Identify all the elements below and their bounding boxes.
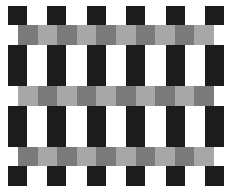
gray-square-light <box>136 86 156 106</box>
gray-square-dark <box>57 25 77 45</box>
black-rect <box>126 166 145 186</box>
gray-square-dark <box>116 86 136 106</box>
gray-square-light <box>155 147 175 166</box>
gray-square-dark <box>38 86 58 106</box>
black-rect <box>166 45 185 86</box>
gray-square-dark <box>136 147 156 166</box>
gray-square-light <box>155 25 175 45</box>
gray-square-light <box>116 147 136 166</box>
gray-band <box>18 25 214 45</box>
black-rect <box>8 106 27 147</box>
black-rect <box>47 45 66 86</box>
gray-square-dark <box>18 147 38 166</box>
black-rect <box>47 106 66 147</box>
gray-square-light <box>77 147 97 166</box>
gray-square-dark <box>194 86 214 106</box>
black-rect <box>205 166 224 186</box>
gray-square-light <box>175 86 195 106</box>
gray-square-light <box>194 147 214 166</box>
gray-square-light <box>57 86 77 106</box>
gray-square-light <box>194 25 214 45</box>
gray-square-dark <box>175 25 195 45</box>
black-rect <box>47 6 66 25</box>
black-rect <box>205 106 224 147</box>
black-rect <box>166 6 185 25</box>
gray-square-light <box>38 147 58 166</box>
black-rect <box>87 6 106 25</box>
gray-square-dark <box>136 25 156 45</box>
gray-square-light <box>18 86 38 106</box>
black-rect <box>205 6 224 25</box>
gray-square-dark <box>18 25 38 45</box>
gray-square-light <box>96 86 116 106</box>
gray-square-light <box>116 25 136 45</box>
black-rect <box>87 45 106 86</box>
black-rect <box>87 166 106 186</box>
black-rect <box>8 166 27 186</box>
gray-square-dark <box>175 147 195 166</box>
gray-square-dark <box>155 86 175 106</box>
black-rect <box>126 106 145 147</box>
gray-square-dark <box>96 25 116 45</box>
black-rect <box>166 106 185 147</box>
gray-square-dark <box>57 147 77 166</box>
gray-band <box>18 147 214 166</box>
black-rect <box>8 45 27 86</box>
gray-square-dark <box>96 147 116 166</box>
illusion-figure <box>0 0 228 196</box>
black-rect <box>87 106 106 147</box>
gray-square-light <box>38 25 58 45</box>
gray-square-dark <box>77 86 97 106</box>
gray-square-light <box>77 25 97 45</box>
black-rect <box>205 45 224 86</box>
black-rect <box>47 166 66 186</box>
black-rect <box>126 6 145 25</box>
gray-band <box>18 86 214 106</box>
black-rect <box>8 6 27 25</box>
black-rect <box>166 166 185 186</box>
black-rect <box>126 45 145 86</box>
